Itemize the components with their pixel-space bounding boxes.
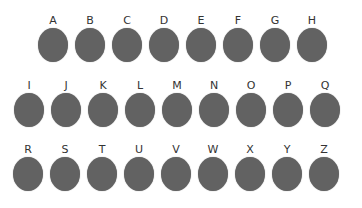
letter-cell: A <box>37 14 69 62</box>
letter-label: N <box>198 79 230 93</box>
letter-cell: O <box>235 79 267 127</box>
letter-label: D <box>148 14 180 28</box>
letter-cell: I <box>13 79 45 127</box>
letter-label: M <box>161 79 193 93</box>
letter-cell: S <box>49 143 81 191</box>
letter-cell: C <box>111 14 143 62</box>
letter-label: J <box>50 79 82 93</box>
letter-label: L <box>124 79 156 93</box>
letter-cell: T <box>86 143 118 191</box>
letter-circle-button[interactable] <box>236 93 266 127</box>
letter-circle-button[interactable] <box>50 157 80 191</box>
letter-cell: V <box>160 143 192 191</box>
letter-cell: W <box>197 143 229 191</box>
letter-circle-button[interactable] <box>273 93 303 127</box>
letter-cell: N <box>198 79 230 127</box>
letter-label: H <box>296 14 328 28</box>
letter-circle-button[interactable] <box>310 93 340 127</box>
letter-cell: G <box>259 14 291 62</box>
letter-circle-button[interactable] <box>309 157 339 191</box>
letter-label: Q <box>309 79 341 93</box>
letter-cell: M <box>161 79 193 127</box>
letter-circle-button[interactable] <box>87 157 117 191</box>
letter-label: A <box>37 14 69 28</box>
circle-row-1: ABCDEFGH <box>0 14 362 74</box>
letter-circle-button[interactable] <box>198 157 228 191</box>
circle-row-3: RSTUVWXYZ <box>0 143 362 203</box>
letter-circle-button[interactable] <box>124 157 154 191</box>
letter-label: G <box>259 14 291 28</box>
letter-label: S <box>49 143 81 157</box>
letter-cell: P <box>272 79 304 127</box>
letter-cell: D <box>148 14 180 62</box>
letter-cell: H <box>296 14 328 62</box>
letter-circle-button[interactable] <box>112 28 142 62</box>
letter-cell: R <box>12 143 44 191</box>
letter-circle-button[interactable] <box>272 157 302 191</box>
letter-label: E <box>185 14 217 28</box>
letter-label: P <box>272 79 304 93</box>
letter-cell: K <box>87 79 119 127</box>
letter-label: Z <box>308 143 340 157</box>
letter-circle-button[interactable] <box>38 28 68 62</box>
letter-cell: L <box>124 79 156 127</box>
letter-cell: E <box>185 14 217 62</box>
letter-circle-button[interactable] <box>51 93 81 127</box>
letter-label: B <box>74 14 106 28</box>
letter-cell: B <box>74 14 106 62</box>
letter-circle-button[interactable] <box>88 93 118 127</box>
letter-label: C <box>111 14 143 28</box>
letter-label: R <box>12 143 44 157</box>
letter-circle-button[interactable] <box>235 157 265 191</box>
letter-circle-button[interactable] <box>149 28 179 62</box>
letter-circle-button[interactable] <box>14 93 44 127</box>
letter-cell: U <box>123 143 155 191</box>
letter-circle-button[interactable] <box>162 93 192 127</box>
letter-circle-button[interactable] <box>186 28 216 62</box>
letter-label: F <box>222 14 254 28</box>
letter-circle-button[interactable] <box>223 28 253 62</box>
letter-circle-button[interactable] <box>260 28 290 62</box>
letter-cell: Z <box>308 143 340 191</box>
letter-circle-button[interactable] <box>13 157 43 191</box>
letter-label: X <box>234 143 266 157</box>
letter-cell: Y <box>271 143 303 191</box>
letter-circle-button[interactable] <box>75 28 105 62</box>
circle-row-2: IJKLMNOPQ <box>0 79 362 139</box>
letter-circle-button[interactable] <box>161 157 191 191</box>
letter-circle-button[interactable] <box>125 93 155 127</box>
letter-cell: F <box>222 14 254 62</box>
letter-label: W <box>197 143 229 157</box>
letter-cell: X <box>234 143 266 191</box>
letter-label: T <box>86 143 118 157</box>
letter-circle-button[interactable] <box>199 93 229 127</box>
letter-cell: J <box>50 79 82 127</box>
letter-circle-button[interactable] <box>297 28 327 62</box>
letter-label: O <box>235 79 267 93</box>
letter-label: I <box>13 79 45 93</box>
letter-label: U <box>123 143 155 157</box>
letter-cell: Q <box>309 79 341 127</box>
letter-label: Y <box>271 143 303 157</box>
letter-label: V <box>160 143 192 157</box>
letter-label: K <box>87 79 119 93</box>
